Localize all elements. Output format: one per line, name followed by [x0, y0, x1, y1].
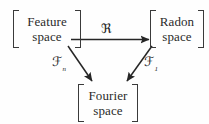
node-radon-space-line2: space [162, 29, 191, 44]
arrow-feature-to-fourier [68, 46, 92, 81]
node-fourier-space-line1: Fourier [89, 88, 128, 103]
node-radon-space: Radon space [150, 10, 204, 48]
label-fourier-transform-n-base: ℱ [52, 54, 62, 69]
label-fourier-transform-n: ℱn [52, 54, 66, 71]
label-fourier-transform-n-subscript: n [63, 65, 67, 73]
node-fourier-space-line2: space [93, 103, 122, 118]
label-fourier-transform-1: ℱ1 [144, 54, 158, 71]
node-feature-space: Feature space [13, 10, 81, 48]
node-fourier-space: Fourier space [78, 84, 138, 122]
label-fourier-transform-1-base: ℱ [144, 54, 154, 69]
label-fourier-transform-1-subscript: 1 [155, 65, 159, 73]
diagram-canvas: Feature space Radon space Fourier space … [0, 0, 209, 124]
node-radon-space-line1: Radon [160, 14, 194, 29]
node-feature-space-line2: space [32, 29, 61, 44]
node-feature-space-line1: Feature [27, 14, 67, 29]
label-radon-operator: ℜ [101, 21, 112, 39]
label-radon-operator-base: ℜ [101, 21, 112, 36]
